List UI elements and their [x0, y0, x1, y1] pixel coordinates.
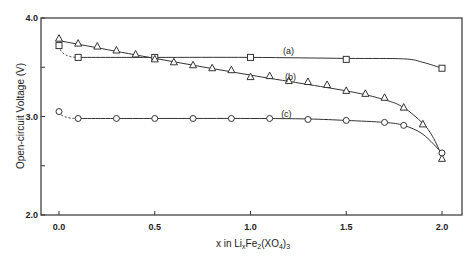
y-tick-label: 2.0 — [25, 210, 38, 220]
circle-marker — [75, 115, 81, 121]
circle-marker — [382, 119, 388, 125]
circle-marker — [228, 115, 234, 121]
square-marker — [439, 65, 445, 71]
series-curve-0 — [78, 57, 442, 68]
triangle-marker — [228, 66, 235, 73]
triangle-marker — [209, 64, 216, 71]
triangle-marker — [304, 78, 311, 85]
x-tick-label: 0.5 — [148, 222, 161, 232]
series-markers — [56, 35, 446, 162]
triangle-marker — [132, 50, 139, 57]
square-marker — [75, 54, 81, 60]
circle-marker — [113, 115, 119, 121]
series-label: (c) — [281, 109, 292, 119]
triangle-marker — [381, 94, 388, 101]
square-marker — [56, 43, 62, 49]
square-marker — [343, 56, 349, 62]
triangle-marker — [56, 35, 63, 42]
x-axis-title: x in LixFe2(XO4)3 — [216, 238, 290, 250]
triangle-marker — [113, 47, 120, 54]
x-tick-label: 2.0 — [436, 222, 449, 232]
triangle-marker — [324, 81, 331, 88]
x-tick-label: 0.0 — [53, 222, 66, 232]
triangle-marker — [94, 43, 101, 50]
triangle-marker — [75, 40, 82, 47]
triangle-marker — [247, 73, 254, 80]
y-axis: 2.03.04.0 — [25, 13, 45, 220]
triangle-marker — [362, 90, 369, 97]
y-axis-title: Open-circuit Voltage (V) — [15, 63, 26, 169]
plot-frame — [41, 18, 462, 215]
circle-marker — [401, 122, 407, 128]
circle-marker — [267, 115, 273, 121]
circle-marker — [439, 150, 445, 156]
y-tick-label: 3.0 — [25, 112, 38, 122]
circle-marker — [190, 115, 196, 121]
x-tick-label: 1.0 — [244, 222, 257, 232]
triangle-marker — [266, 72, 273, 79]
triangle-marker — [400, 104, 407, 111]
x-tick-label: 1.5 — [340, 222, 353, 232]
voltage-chart: 2.03.04.0 0.00.51.01.52.0 (a)(b)(c) Open… — [0, 0, 474, 262]
circle-marker — [152, 115, 158, 121]
circle-marker — [343, 117, 349, 123]
circle-marker — [305, 116, 311, 122]
series-label: (a) — [283, 46, 294, 56]
series-label: (b) — [285, 72, 296, 82]
y-tick-label: 4.0 — [25, 13, 38, 23]
circle-marker — [56, 109, 62, 115]
square-marker — [248, 54, 254, 60]
x-axis: 0.00.51.01.52.0 — [53, 211, 449, 232]
